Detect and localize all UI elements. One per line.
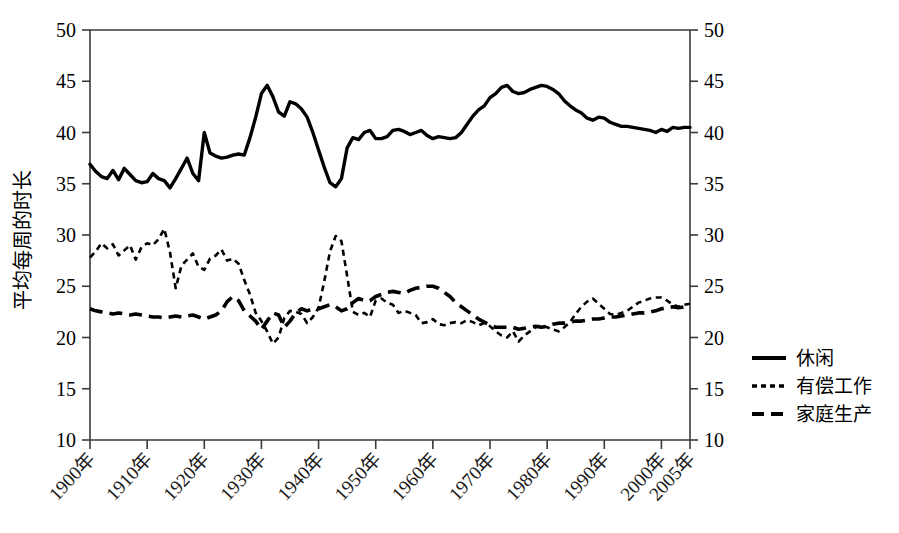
y-tick-label-left: 10 [56, 429, 76, 451]
x-tick-label: 1990年 [559, 448, 613, 504]
legend-label: 有偿工作 [796, 376, 872, 397]
y-tick-label-right: 50 [704, 19, 724, 41]
x-tick-label: 1950年 [330, 448, 384, 504]
y-tick-label-left: 45 [56, 70, 76, 92]
y-tick-label-right: 30 [704, 224, 724, 246]
y-tick-label-right: 20 [704, 327, 724, 349]
x-axis-tick-labels: 1900年1910年1920年1930年1940年1950年1960年1970年… [45, 448, 699, 504]
y-tick-label-left: 20 [56, 327, 76, 349]
x-tick-label: 1980年 [502, 448, 556, 504]
y-tick-label-right: 25 [704, 275, 724, 297]
x-tick-label: 1920年 [159, 448, 213, 504]
y-axis-title-group: 平均每周的时长 [12, 170, 34, 310]
legend-label: 家庭生产 [796, 404, 872, 425]
y-tick-label-left: 25 [56, 275, 76, 297]
y-tick-label-left: 40 [56, 122, 76, 144]
series-line-paid-work [90, 229, 690, 344]
x-tick-label: 1970年 [445, 448, 499, 504]
x-axis-ticks [90, 440, 690, 449]
y-tick-label-left: 15 [56, 378, 76, 400]
plot-axes [90, 30, 690, 440]
y-tick-label-right: 35 [704, 173, 724, 195]
y-axis-tick-labels-left: 101520253035404550 [56, 19, 76, 451]
y-axis-tick-labels-right: 101520253035404550 [704, 19, 724, 451]
y-tick-label-left: 50 [56, 19, 76, 41]
y-axis-ticks-left [82, 30, 90, 440]
y-tick-label-left: 30 [56, 224, 76, 246]
chart-legend: 休闲有偿工作家庭生产 [752, 348, 872, 425]
y-tick-label-right: 10 [704, 429, 724, 451]
legend-item: 有偿工作 [752, 376, 872, 397]
line-chart-canvas: 101520253035404550 101520253035404550 19… [0, 0, 899, 533]
series-line-leisure [90, 85, 690, 188]
legend-label: 休闲 [796, 348, 834, 369]
legend-item: 家庭生产 [752, 404, 872, 425]
y-tick-label-right: 40 [704, 122, 724, 144]
y-tick-label-left: 35 [56, 173, 76, 195]
legend-item: 休闲 [752, 348, 834, 369]
x-tick-label: 1960年 [388, 448, 442, 504]
y-tick-label-right: 15 [704, 378, 724, 400]
x-tick-label: 1900年 [45, 448, 99, 504]
y-axis-title: 平均每周的时长 [12, 170, 34, 310]
data-series-group [90, 85, 690, 343]
chart-figure: 101520253035404550 101520253035404550 19… [0, 0, 899, 533]
y-axis-ticks-right [690, 30, 698, 440]
series-line-home-production [90, 286, 690, 329]
x-tick-label: 1930年 [216, 448, 270, 504]
y-tick-label-right: 45 [704, 70, 724, 92]
x-tick-label: 1940年 [273, 448, 327, 504]
x-tick-label: 1910年 [102, 448, 156, 504]
